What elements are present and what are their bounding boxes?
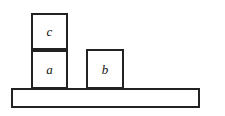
table-surface	[11, 88, 200, 108]
block-c[interactable]: c	[31, 13, 68, 50]
block-b[interactable]: b	[86, 49, 124, 89]
block-b-label: b	[102, 63, 109, 76]
blocks-world-diagram: c a b	[0, 0, 225, 116]
block-a-label: a	[46, 63, 53, 76]
block-a[interactable]: a	[31, 50, 68, 89]
block-c-label: c	[47, 25, 53, 38]
